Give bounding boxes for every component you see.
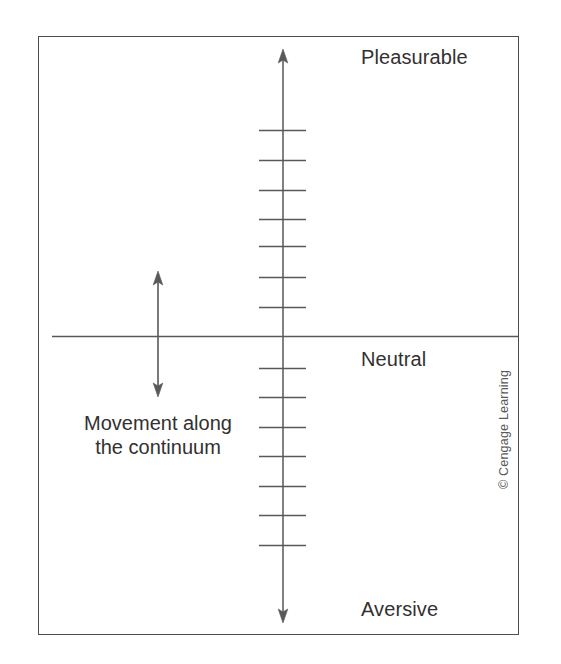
label-pleasurable: Pleasurable — [361, 46, 468, 70]
label-movement-line2: the continuum — [72, 435, 244, 459]
label-movement-annotation: Movement along the continuum — [72, 411, 244, 459]
figure-root: Pleasurable Neutral Aversive Movement al… — [0, 0, 561, 664]
copyright-credit: © Cengage Learning — [497, 349, 511, 489]
label-movement-line1: Movement along — [72, 411, 244, 435]
label-aversive: Aversive — [361, 598, 438, 622]
diagram-frame — [38, 36, 519, 635]
label-neutral: Neutral — [361, 348, 426, 372]
